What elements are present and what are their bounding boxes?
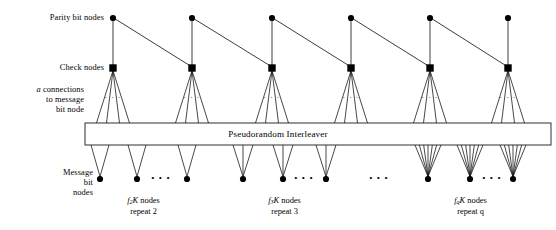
check-fanout-ellipsis: · · · [102,94,124,102]
parity-bit-node [189,15,195,21]
message-label-line2: bit [84,178,93,187]
message-bit-node [280,176,286,182]
group-repeat-label: repeat 3 [235,207,335,217]
group-caption-repeat-q: fqK nodesrepeat q [421,196,521,217]
a-connections-line3: bit node [56,105,84,114]
message-bit-node [425,176,431,182]
group-count-label: f2K nodes [94,196,194,207]
message-repeat-edge [461,145,470,177]
group-count-label: f3K nodes [235,196,335,207]
message-repeat-edge [100,145,109,177]
message-bit-node [184,176,190,182]
message-repeat-edge [504,145,513,177]
check-node [109,64,116,71]
message-repeat-edge [316,145,326,177]
message-repeat-edge [273,145,283,177]
a-connections-line2: to message [46,95,84,104]
message-group-inner-ellipsis: • • • [150,174,172,183]
accumulator-diagonal-edge [275,19,349,65]
message-repeat-edge [428,145,437,177]
nodes-word: nodes [138,196,160,205]
nodes-word: nodes [279,196,301,205]
message-bit-nodes-label: Messagebitnodes [0,168,93,199]
message-repeat-edge [326,145,336,177]
message-repeat-edge [233,145,243,177]
parity-bit-node [110,15,116,21]
check-node-group [109,64,511,71]
check-node [426,64,433,71]
accumulator-diagonal-edge [195,19,270,65]
a-connections-rest: connections [41,85,84,94]
message-repeat-edge [283,145,293,177]
message-repeat-edge [128,145,137,177]
k-nodes-text: K nodes [133,196,160,205]
nodes-word: nodes [465,196,487,205]
check-node [347,64,354,71]
check-fanout-ellipsis: · · · [419,94,441,102]
parity-bit-nodes-label: Parity bit nodes [0,13,104,23]
message-group-inner-ellipsis: • • • [293,174,315,183]
parity-bit-node [427,15,433,21]
check-fanout-ellipsis: · · · [497,94,519,102]
group-count-label: fqK nodes [421,196,521,207]
message-repeat-edge [513,145,522,177]
message-repeat-edge [187,145,196,177]
message-bit-node [510,176,516,182]
figure-canvas: Pseudorandom Interleaver Parity bit node… [0,0,556,230]
check-fanout-ellipsis: · · · [340,94,362,102]
accumulator-diagonal-edge [433,19,506,65]
check-node [268,64,275,71]
message-repeat-edge [243,145,253,177]
message-label-line3: nodes [73,188,93,197]
parity-bit-node [269,15,275,21]
group-caption-repeat-3: f3K nodesrepeat 3 [235,196,335,217]
message-repeat-edge [178,145,187,177]
message-repeat-edge [470,145,479,177]
message-bit-node [467,176,473,182]
group-repeat-label: repeat 2 [94,207,194,217]
parity-bit-node [505,15,511,21]
parity-bit-node [348,15,354,21]
interleaver-label: Pseudorandom Interleaver [0,129,556,139]
interleaver-to-message-edges [91,145,526,177]
message-repeat-edge [137,145,146,177]
message-repeat-edge [419,145,428,177]
check-to-interleaver-edges [97,71,525,123]
check-fanout-ellipsis: · · · [261,94,283,102]
parity-to-check-edges [113,18,508,68]
group-repeat-label: repeat q [421,207,521,217]
accumulator-diagonal-edge [116,19,190,65]
message-group-inner-ellipsis: • • • [481,174,503,183]
k-nodes-text: K nodes [274,196,301,205]
message-bit-node [323,176,329,182]
group-caption-repeat-2: f2K nodesrepeat 2 [94,196,194,217]
check-node [504,64,511,71]
a-connections-label: a connectionsto messagebit node [0,85,84,116]
k-nodes-text: K nodes [460,196,487,205]
check-nodes-label: Check nodes [0,63,104,73]
check-node [188,64,195,71]
message-bit-node [134,176,140,182]
message-label-line1: Message [63,168,93,177]
check-fanout-ellipsis: · · · [181,94,203,102]
message-group-gap-ellipsis: • • • [368,174,390,183]
parity-bit-node-group [110,15,511,21]
message-bit-node [240,176,246,182]
message-bit-node [97,176,103,182]
accumulator-diagonal-edge [354,19,428,65]
